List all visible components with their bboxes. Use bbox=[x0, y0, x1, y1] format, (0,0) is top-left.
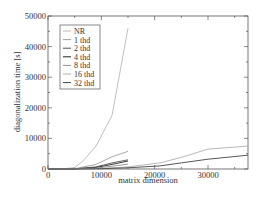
axis-ticks: 0100002000030000400005000001000020000300… bbox=[25, 11, 248, 180]
series-line-16-thd bbox=[48, 146, 248, 169]
y-tick-label: 20000 bbox=[25, 103, 46, 113]
y-axis-label: diagonalization time [s] bbox=[12, 51, 22, 132]
line-chart: 0100002000030000400005000001000020000300… bbox=[0, 0, 264, 197]
x-tick-label: 10000 bbox=[91, 170, 112, 180]
legend-item-label: 32 thd bbox=[74, 79, 94, 88]
y-tick-label: 30000 bbox=[25, 72, 46, 82]
x-tick-label: 0 bbox=[46, 170, 50, 180]
x-tick-label: 30000 bbox=[197, 170, 218, 180]
y-tick-label: 50000 bbox=[25, 11, 46, 21]
x-axis-label: matrix dimension bbox=[118, 175, 178, 185]
legend: NR1 thd2 thd4 thd8 thd16 thd32 thd bbox=[60, 25, 100, 89]
series-line-1-thd bbox=[48, 151, 128, 169]
series-line-32-thd bbox=[48, 155, 248, 169]
y-tick-label: 40000 bbox=[25, 42, 46, 52]
y-tick-label: 10000 bbox=[25, 133, 46, 143]
